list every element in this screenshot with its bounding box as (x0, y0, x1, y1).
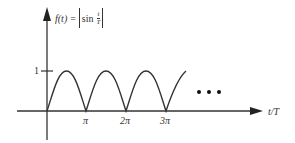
x-tick-label-2pi: 2π (120, 115, 131, 126)
y-tick-label-1: 1 (34, 65, 39, 76)
ellipsis-dot (207, 90, 211, 94)
x-tick-label-3pi: 3π (159, 115, 171, 126)
x-axis-label: t/T (268, 106, 281, 117)
title-func: sin (82, 13, 94, 24)
rectified-sine-chart: 1 π 2π 3π t/T (0, 0, 295, 143)
ellipsis-dot (217, 90, 221, 94)
title-fraction: t T (97, 11, 101, 26)
rectified-sine-curve (47, 71, 186, 111)
y-axis-arrow-icon (43, 7, 51, 21)
title-frac-den: T (97, 19, 101, 26)
x-axis-arrow-icon (250, 107, 263, 115)
ellipsis-dot (197, 90, 201, 94)
chart-title: f(t) = sin t T (55, 7, 103, 29)
title-equals: = (70, 13, 76, 24)
title-lhs: f(t) (55, 13, 67, 24)
title-abs-value: sin t T (79, 8, 104, 28)
x-tick-label-pi: π (83, 115, 89, 126)
